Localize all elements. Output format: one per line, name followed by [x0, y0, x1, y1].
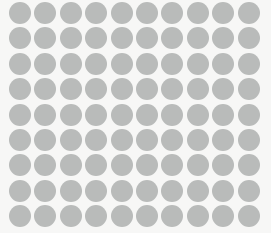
dot-2-6: [161, 53, 183, 75]
dot-grid-layer: [0, 0, 271, 233]
dot-8-7: [187, 205, 209, 227]
dot-8-3: [85, 205, 107, 227]
dot-4-8: [212, 104, 234, 126]
dot-0-9: [238, 2, 260, 24]
dot-5-3: [85, 129, 107, 151]
dot-0-3: [85, 2, 107, 24]
dot-8-8: [212, 205, 234, 227]
dot-6-6: [161, 154, 183, 176]
dot-2-3: [85, 53, 107, 75]
dot-7-3: [85, 180, 107, 202]
dot-1-5: [136, 27, 158, 49]
dot-0-4: [111, 2, 133, 24]
dot-3-1: [34, 78, 56, 100]
dot-2-8: [212, 53, 234, 75]
dot-4-0: [9, 104, 31, 126]
dot-3-5: [136, 78, 158, 100]
dot-7-6: [161, 180, 183, 202]
dot-6-2: [60, 154, 82, 176]
dot-1-4: [111, 27, 133, 49]
dot-8-4: [111, 205, 133, 227]
dot-6-7: [187, 154, 209, 176]
dot-1-9: [238, 27, 260, 49]
dot-0-7: [187, 2, 209, 24]
dot-0-0: [9, 2, 31, 24]
dot-3-3: [85, 78, 107, 100]
dot-0-6: [161, 2, 183, 24]
dot-1-2: [60, 27, 82, 49]
dot-grid-canvas: [0, 0, 271, 233]
dot-0-1: [34, 2, 56, 24]
dot-4-7: [187, 104, 209, 126]
dot-5-0: [9, 129, 31, 151]
dot-4-6: [161, 104, 183, 126]
dot-8-9: [238, 205, 260, 227]
dot-5-6: [161, 129, 183, 151]
dot-6-1: [34, 154, 56, 176]
dot-0-5: [136, 2, 158, 24]
dot-6-3: [85, 154, 107, 176]
dot-3-8: [212, 78, 234, 100]
dot-1-0: [9, 27, 31, 49]
dot-0-8: [212, 2, 234, 24]
dot-2-0: [9, 53, 31, 75]
dot-4-4: [111, 104, 133, 126]
dot-7-2: [60, 180, 82, 202]
dot-2-9: [238, 53, 260, 75]
dot-3-0: [9, 78, 31, 100]
dot-5-4: [111, 129, 133, 151]
dot-8-0: [9, 205, 31, 227]
dot-6-0: [9, 154, 31, 176]
dot-8-6: [161, 205, 183, 227]
dot-2-5: [136, 53, 158, 75]
dot-3-4: [111, 78, 133, 100]
dot-3-9: [238, 78, 260, 100]
dot-5-8: [212, 129, 234, 151]
dot-5-7: [187, 129, 209, 151]
dot-0-2: [60, 2, 82, 24]
dot-1-8: [212, 27, 234, 49]
dot-7-0: [9, 180, 31, 202]
dot-1-3: [85, 27, 107, 49]
dot-5-1: [34, 129, 56, 151]
dot-6-9: [238, 154, 260, 176]
dot-4-5: [136, 104, 158, 126]
dot-6-8: [212, 154, 234, 176]
dot-2-2: [60, 53, 82, 75]
dot-7-8: [212, 180, 234, 202]
dot-3-7: [187, 78, 209, 100]
dot-4-9: [238, 104, 260, 126]
dot-2-7: [187, 53, 209, 75]
dot-7-5: [136, 180, 158, 202]
dot-8-1: [34, 205, 56, 227]
dot-1-6: [161, 27, 183, 49]
dot-4-1: [34, 104, 56, 126]
dot-7-4: [111, 180, 133, 202]
dot-5-2: [60, 129, 82, 151]
dot-8-5: [136, 205, 158, 227]
dot-3-6: [161, 78, 183, 100]
dot-2-1: [34, 53, 56, 75]
dot-4-2: [60, 104, 82, 126]
dot-7-7: [187, 180, 209, 202]
dot-6-5: [136, 154, 158, 176]
dot-7-9: [238, 180, 260, 202]
dot-5-5: [136, 129, 158, 151]
dot-7-1: [34, 180, 56, 202]
dot-4-3: [85, 104, 107, 126]
dot-3-2: [60, 78, 82, 100]
dot-5-9: [238, 129, 260, 151]
dot-8-2: [60, 205, 82, 227]
dot-6-4: [111, 154, 133, 176]
dot-1-7: [187, 27, 209, 49]
dot-1-1: [34, 27, 56, 49]
dot-2-4: [111, 53, 133, 75]
